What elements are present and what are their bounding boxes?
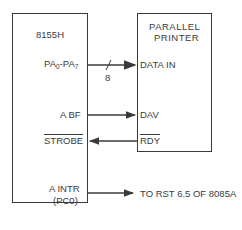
printer-title-2: PRINTER — [154, 32, 199, 43]
bus-width-label: 8 — [105, 72, 110, 83]
aintr-label: A INTR — [49, 183, 80, 194]
port-a-label: PA0-PA7 — [44, 58, 78, 72]
8155h-block — [13, 14, 88, 203]
printer-title-1: PARALLEL — [149, 21, 200, 32]
aintr-pin-label: (PC0) — [53, 195, 78, 206]
abf-label: A BF — [60, 109, 81, 120]
8155h-title: 8155H — [36, 29, 64, 40]
data-in-label: DATA IN — [140, 59, 176, 70]
rdy-label: RDY — [140, 135, 160, 146]
strobe-label: STROBE — [44, 135, 83, 146]
interrupt-target-label: TO RST 6.5 OF 8085A — [140, 188, 236, 199]
dav-label: DAV — [140, 109, 159, 120]
